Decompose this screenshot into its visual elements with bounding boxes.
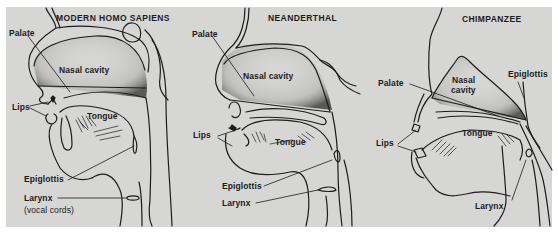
- chimpanzee-drawing: [398, 8, 552, 226]
- label-larynx-human: Larynx: [24, 194, 52, 203]
- label-epiglottis-human: Epiglottis: [24, 175, 64, 184]
- label-tongue-neanderthal: Tongue: [275, 138, 306, 147]
- label-nasal-cavity-human: Nasal cavity: [59, 66, 109, 75]
- label-nasal-chimpanzee: Nasal: [452, 76, 475, 85]
- title-modern-homo-sapiens: MODERN HOMO SAPIENS: [56, 14, 170, 23]
- label-palate-human: Palate: [9, 29, 35, 38]
- label-epiglottis-chimpanzee: Epiglottis: [508, 70, 548, 79]
- label-lips-neanderthal: Lips: [193, 131, 211, 140]
- title-chimpanzee: CHIMPANZEE: [462, 15, 522, 24]
- label-larynx-neanderthal: Larynx: [222, 199, 250, 208]
- label-cavity-chimpanzee: cavity: [451, 86, 476, 95]
- title-neanderthal: NEANDERTHAL: [268, 14, 337, 23]
- label-larynx-chimpanzee: Larynx: [475, 202, 503, 211]
- label-epiglottis-neanderthal: Epiglottis: [222, 182, 262, 191]
- label-tongue-human: Tongue: [87, 112, 118, 121]
- label-lips-human: Lips: [12, 103, 30, 112]
- label-palate-chimpanzee: Palate: [378, 79, 404, 88]
- vocal-tract-drawings: [0, 0, 558, 233]
- label-nasal-cavity-neanderthal: Nasal cavity: [243, 72, 293, 81]
- label-palate-neanderthal: Palate: [192, 30, 218, 39]
- label-tongue-chimpanzee: Tongue: [462, 129, 493, 138]
- neanderthal-drawing: [212, 8, 360, 226]
- label-vocal-cords-human: (vocal cords): [24, 206, 74, 215]
- label-lips-chimpanzee: Lips: [376, 139, 394, 148]
